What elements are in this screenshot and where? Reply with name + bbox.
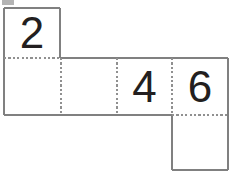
cube-net-diagram: 246 <box>0 0 232 174</box>
cube-face-label-6: 6 <box>172 58 228 115</box>
cube-face-blank <box>61 58 117 115</box>
cube-face-label-4: 4 <box>117 58 172 115</box>
cube-face-blank <box>172 115 228 170</box>
cube-face-blank <box>4 58 61 115</box>
cube-face-label-2: 2 <box>4 8 60 58</box>
